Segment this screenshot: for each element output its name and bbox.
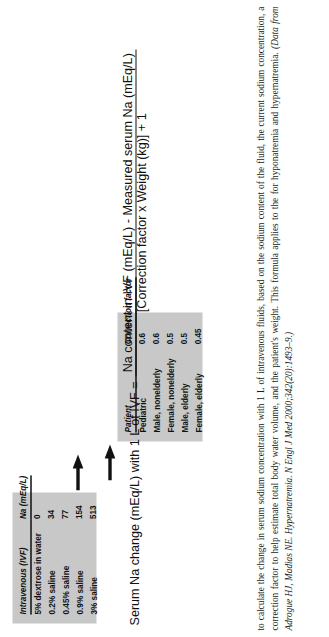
table-row: 0.45% saline 77 [59,475,73,614]
column-header-intravenous: Intravenous (IVF) [18,519,30,614]
table-row: 5% dextrose in water 0 [30,475,45,614]
arrow-right-icon-ivf [72,454,83,490]
ivf-table-grid: Intravenous (IVF) Na (mEq/L) 5% dextrose… [18,475,101,614]
cell-patient: Female, elderly [192,344,206,432]
cell-patient: Male, elderly [178,344,192,432]
cell-factor: 0.6 [150,277,164,343]
scan-artifact-speck [195,376,199,378]
formula-fraction: Na content in IVF (mEq/L) - Measured ser… [120,49,148,376]
column-header-na: Na (mEq/L) [18,475,30,518]
table-row: 0.9% saline 154 [73,475,87,614]
cell-factor: 0.5 [178,277,192,343]
arrow-right-icon-correction-factor [104,444,115,480]
cell-fluid: 0.2% saline [45,519,59,614]
table-row: 0.2% saline 34 [45,475,59,614]
cell-fluid: 0.9% saline [73,519,87,614]
table-row: Female, elderly 0.45 [192,277,206,432]
cell-fluid: 0.45% saline [59,519,73,614]
cell-na: 0 [30,475,45,518]
cell-patient: Female, nonelderly [164,344,178,432]
formula-left-hand-side: Serum Na change (mEq/L) with 1 L of IVF … [127,381,141,625]
cell-patient: Male, nonelderly [150,344,164,432]
cell-fluid: 3% saline [87,519,101,614]
cell-na: 513 [87,475,101,518]
cell-factor: 0.5 [164,277,178,343]
table-row: Male, elderly 0.5 [178,277,192,432]
intravenous-fluid-sodium-table: Intravenous (IVF) Na (mEq/L) 5% dextrose… [12,492,96,623]
formula-denominator: [Correction factor x Weight (kg)] + 1 [132,109,148,316]
cell-fluid: 5% dextrose in water [30,519,45,614]
cell-factor: 0.45 [192,277,206,343]
scanned-figure-page: Intravenous (IVF) Na (mEq/L) 5% dextrose… [0,0,329,637]
figure-area: Intravenous (IVF) Na (mEq/L) 5% dextrose… [0,0,236,637]
caption-text: to calculate the change in serum sodium … [255,6,279,630]
table-row: Female, nonelderly 0.5 [164,277,178,432]
cell-na: 34 [45,475,59,518]
cell-na: 77 [59,475,73,518]
table-header-row: Intravenous (IVF) Na (mEq/L) [18,475,30,614]
figure-caption-paragraph: to calculate the change in serum sodium … [253,6,295,630]
table-row: Male, nonelderly 0.6 [150,277,164,432]
table-row: 3% saline 513 [87,475,101,614]
serum-na-change-formula: Serum Na change (mEq/L) with 1 L of IVF … [120,205,148,625]
